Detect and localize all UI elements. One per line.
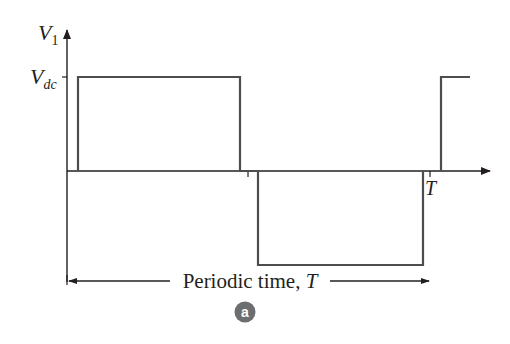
square-wave-next-cycle bbox=[441, 77, 470, 171]
period-tick-label: T bbox=[425, 177, 438, 199]
vdc-label: Vdc bbox=[30, 64, 57, 92]
period-annotation: Periodic time, T bbox=[183, 269, 319, 293]
y-axis-label: V1 bbox=[38, 20, 58, 48]
svg-text:a: a bbox=[241, 304, 249, 320]
panel-badge: a bbox=[235, 302, 256, 323]
square-wave-diagram: V1 Vdc T Periodic time, T a bbox=[0, 0, 510, 344]
